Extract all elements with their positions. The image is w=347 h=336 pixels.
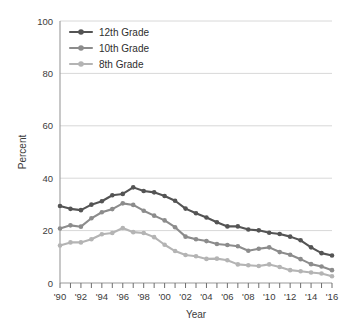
data-point-marker (288, 252, 293, 257)
data-point-marker (288, 234, 293, 239)
x-axis-tick-label: '08 (242, 291, 254, 302)
legend-label: 8th Grade (99, 59, 144, 70)
data-point-marker (215, 256, 220, 261)
x-axis-tick-label: '14 (305, 291, 317, 302)
x-axis-title: Year (186, 309, 207, 320)
data-point-marker (330, 268, 335, 273)
data-point-marker (267, 245, 272, 250)
data-point-marker (141, 189, 146, 194)
data-point-marker (110, 231, 115, 236)
data-point-marker (89, 202, 94, 207)
chart-canvas: 020406080100'90'92'94'96'98'00'02'04'06'… (0, 0, 347, 336)
data-point-marker (79, 208, 84, 213)
data-point-marker (162, 218, 167, 223)
data-point-marker (194, 254, 199, 259)
data-point-marker (173, 249, 178, 254)
data-point-marker (225, 243, 230, 248)
data-point-marker (100, 210, 105, 215)
data-point-marker (173, 225, 178, 230)
data-point-marker (204, 215, 209, 220)
data-point-marker (309, 262, 314, 267)
data-point-marker (330, 253, 335, 258)
data-point-marker (110, 193, 115, 198)
data-point-marker (298, 257, 303, 262)
y-axis-tick-label: 100 (37, 16, 53, 27)
x-axis-tick-label: '98 (137, 291, 149, 302)
data-point-marker (236, 244, 241, 249)
data-point-marker (100, 199, 105, 204)
data-point-marker (225, 258, 230, 263)
data-point-marker (204, 257, 209, 262)
data-point-marker (256, 264, 261, 269)
data-point-marker (277, 265, 282, 270)
data-point-marker (152, 190, 157, 195)
data-point-marker (246, 227, 251, 232)
x-axis-tick-label: '04 (200, 291, 212, 302)
x-axis-tick-label: '12 (284, 291, 296, 302)
data-point-marker (162, 242, 167, 247)
legend-marker-swatch (78, 61, 84, 67)
y-axis-title: Percent (17, 135, 28, 170)
data-point-marker (194, 211, 199, 216)
data-point-marker (277, 250, 282, 255)
y-axis-tick-label: 40 (42, 173, 53, 184)
data-point-marker (277, 232, 282, 237)
data-point-marker (236, 224, 241, 229)
data-point-marker (58, 226, 63, 231)
data-point-marker (204, 239, 209, 244)
data-point-marker (141, 208, 146, 213)
data-point-marker (267, 230, 272, 235)
data-point-marker (267, 262, 272, 267)
data-point-marker (183, 253, 188, 258)
x-axis-tick-label: '90 (54, 291, 66, 302)
x-axis-tick-label: '10 (263, 291, 275, 302)
legend-marker-swatch (78, 45, 84, 51)
legend-marker-swatch (78, 29, 84, 35)
legend-label: 10th Grade (99, 43, 149, 54)
legend-label: 12th Grade (99, 27, 149, 38)
data-point-marker (236, 262, 241, 267)
data-point-marker (68, 240, 73, 245)
line-chart: 020406080100'90'92'94'96'98'00'02'04'06'… (0, 0, 347, 336)
data-point-marker (68, 223, 73, 228)
data-point-marker (215, 242, 220, 247)
data-point-marker (79, 224, 84, 229)
data-point-marker (194, 237, 199, 242)
data-point-marker (152, 235, 157, 240)
data-point-marker (89, 216, 94, 221)
data-point-marker (58, 204, 63, 209)
y-axis-tick-label: 80 (42, 68, 53, 79)
data-point-marker (58, 243, 63, 248)
data-point-marker (141, 231, 146, 236)
y-axis-tick-label: 20 (42, 225, 53, 236)
data-point-marker (298, 238, 303, 243)
data-point-marker (309, 245, 314, 250)
data-point-marker (183, 234, 188, 239)
y-axis-tick-label: 60 (42, 120, 53, 131)
data-point-marker (120, 192, 125, 197)
data-point-marker (225, 224, 230, 229)
data-point-marker (319, 251, 324, 256)
data-point-marker (120, 226, 125, 231)
data-point-marker (246, 263, 251, 268)
series-line (60, 187, 332, 255)
x-axis-tick-label: '94 (96, 291, 108, 302)
data-point-marker (319, 264, 324, 269)
x-axis-tick-label: '02 (179, 291, 191, 302)
data-point-marker (152, 213, 157, 218)
y-axis-tick-label: 0 (48, 278, 53, 289)
data-point-marker (131, 230, 136, 235)
data-point-marker (298, 269, 303, 274)
data-point-marker (246, 248, 251, 253)
data-point-marker (183, 206, 188, 211)
data-point-marker (256, 246, 261, 251)
data-point-marker (131, 203, 136, 208)
data-point-marker (173, 198, 178, 203)
x-axis-tick-label: '92 (75, 291, 87, 302)
x-axis-tick-label: '00 (158, 291, 170, 302)
data-point-marker (309, 270, 314, 275)
data-point-marker (79, 240, 84, 245)
x-axis-tick-label: '96 (117, 291, 129, 302)
data-point-marker (215, 220, 220, 225)
data-point-marker (319, 271, 324, 276)
